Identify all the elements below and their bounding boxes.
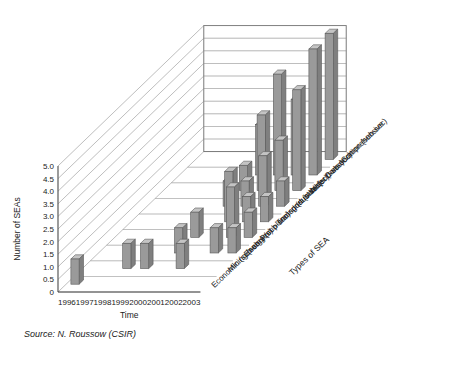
bar-front-face	[210, 228, 218, 253]
bar-side-face	[301, 86, 305, 191]
bar-front-face	[260, 197, 268, 222]
left-wall-depth-line	[58, 26, 204, 166]
x-tick-label: 1999	[111, 298, 129, 307]
figure-container: 00.51.01.52.02.53.03.54.04.55.0Number of…	[0, 0, 460, 370]
left-wall-depth-line	[58, 89, 204, 229]
bar-front-face	[293, 90, 301, 191]
y-tick-label: 5.0	[43, 162, 55, 171]
bar-front-face	[191, 212, 199, 237]
x-tick-label: 2000	[129, 298, 147, 307]
bar	[71, 255, 84, 284]
bar-front-face	[176, 243, 184, 268]
y-tick-label: 0	[50, 288, 55, 297]
bar	[309, 45, 322, 175]
bar-front-face	[228, 228, 236, 253]
y-tick-label: 2.5	[43, 225, 55, 234]
bar-side-face	[131, 239, 135, 268]
y-axis-title: Number of SEAs	[12, 197, 22, 260]
bar	[123, 239, 136, 268]
bar	[244, 208, 257, 237]
y-tick-label: 4.5	[43, 175, 55, 184]
left-wall-depth-line	[58, 101, 204, 241]
bar-side-face	[149, 239, 153, 268]
y-tick-label: 4.0	[43, 187, 55, 196]
bar	[228, 224, 241, 253]
bar	[176, 239, 189, 268]
bar-front-face	[325, 33, 333, 159]
bar	[293, 86, 306, 191]
x-tick-label: 2001	[147, 298, 165, 307]
x-tick-label: 2003	[183, 298, 201, 307]
bar	[210, 224, 223, 253]
bar-side-face	[269, 192, 273, 221]
y-tick-label: 3.5	[43, 200, 55, 209]
bar	[260, 192, 273, 221]
bar-front-face	[244, 212, 252, 237]
bar-side-face	[285, 177, 289, 206]
x-tick-label: 1998	[94, 298, 112, 307]
bar-side-face	[252, 208, 256, 237]
y-tick-label: 1.5	[43, 250, 55, 259]
source-note: Source: N. Roussow (CSIR)	[24, 329, 136, 339]
x-tick-label: 1997	[76, 298, 94, 307]
x-tick-label: 2002	[165, 298, 183, 307]
bar-front-face	[309, 49, 317, 175]
left-wall-depth-line	[58, 51, 204, 191]
bar-side-face	[317, 45, 321, 175]
y-tick-label: 1.0	[43, 263, 55, 272]
sea-3d-bar-chart: 00.51.01.52.02.53.03.54.04.55.0Number of…	[0, 0, 460, 370]
bar-side-face	[333, 29, 337, 159]
bar-side-face	[218, 224, 222, 253]
bar	[277, 177, 290, 206]
bar	[325, 29, 338, 159]
bar-front-face	[123, 243, 131, 268]
bar-front-face	[277, 181, 285, 206]
bar-side-face	[236, 224, 240, 253]
x-tick-label: 1996	[58, 298, 76, 307]
x-axis-title: Time	[120, 310, 139, 320]
left-wall-depth-line	[58, 38, 204, 178]
bar-front-face	[141, 243, 149, 268]
y-tick-label: 0.5	[43, 275, 55, 284]
bar-side-face	[79, 255, 83, 284]
bar-side-face	[184, 239, 188, 268]
bar	[191, 208, 204, 237]
left-wall-depth-line	[58, 76, 204, 216]
bar-side-face	[199, 208, 203, 237]
bar	[141, 239, 154, 268]
bar-front-face	[71, 259, 79, 284]
y-tick-label: 3.0	[43, 212, 55, 221]
z-axis-title: Types of SEA	[287, 234, 331, 277]
y-tick-label: 2.0	[43, 238, 55, 247]
